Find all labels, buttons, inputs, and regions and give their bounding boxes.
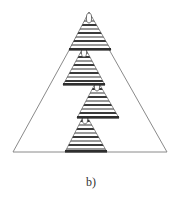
subtriangle-2 — [63, 46, 105, 86]
subtriangle-3 — [77, 80, 119, 119]
node-oval-icon — [86, 13, 91, 23]
figure-caption: b) — [0, 175, 178, 190]
subtriangle-1 — [69, 12, 111, 51]
diagram-canvas — [0, 0, 178, 200]
subtriangle-4 — [65, 113, 107, 153]
